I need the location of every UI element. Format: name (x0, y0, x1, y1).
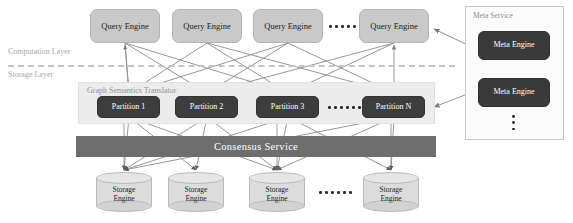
storage-layer-label: Storage Layer (8, 70, 53, 79)
ellipsis-dot (337, 191, 340, 194)
storage-engine-2[interactable]: Storage Engine (168, 172, 224, 212)
meta-engine-2[interactable]: Meta Engine (478, 78, 550, 107)
query-engine-n[interactable]: Query Engine (359, 9, 429, 43)
storage-engine-label: Storage Engine (249, 184, 305, 206)
cylinder-top (96, 172, 152, 184)
ellipsis-dot (349, 191, 352, 194)
partition-n[interactable]: Partition N (362, 96, 425, 118)
partition-3[interactable]: Partition 3 (256, 96, 319, 118)
ellipsis-dot (331, 191, 334, 194)
architecture-diagram: Computation Layer Storage Layer Query En… (0, 0, 573, 223)
storage-engine-ellipsis (319, 191, 352, 194)
graph-semantics-translator-title: Graph Semantics Translator (87, 86, 176, 95)
ellipsis-dot (512, 128, 515, 131)
consensus-service-bar[interactable]: Consensus Service (76, 136, 436, 157)
storage-engine-label-line2: Engine (380, 195, 401, 204)
ellipsis-dot (347, 25, 350, 28)
query-engine-ellipsis (329, 25, 362, 28)
ellipsis-dot (353, 25, 356, 28)
storage-engine-label: Storage Engine (168, 184, 224, 206)
query-engine-2[interactable]: Query Engine (172, 9, 242, 43)
cylinder-top (363, 172, 419, 184)
storage-engine-label: Storage Engine (96, 184, 152, 206)
meta-engine-1[interactable]: Meta Engine (478, 31, 550, 60)
ellipsis-dot (352, 106, 355, 109)
cylinder-top (168, 172, 224, 184)
ellipsis-dot (329, 25, 332, 28)
storage-engine-3[interactable]: Storage Engine (249, 172, 305, 212)
storage-engine-n[interactable]: Storage Engine (363, 172, 419, 212)
storage-engine-label: Storage Engine (363, 184, 419, 206)
ellipsis-dot (346, 106, 349, 109)
partition-1[interactable]: Partition 1 (97, 96, 160, 118)
ellipsis-dot (343, 191, 346, 194)
storage-engine-label-line2: Engine (266, 195, 287, 204)
layer-divider (8, 65, 455, 67)
ellipsis-dot (341, 25, 344, 28)
storage-engine-1[interactable]: Storage Engine (96, 172, 152, 212)
ellipsis-dot (512, 115, 515, 118)
ellipsis-dot (325, 191, 328, 194)
ellipsis-dot (358, 106, 361, 109)
storage-engine-label-line2: Engine (113, 195, 134, 204)
ellipsis-dot (512, 121, 515, 124)
storage-engine-label-line2: Engine (185, 195, 206, 204)
ellipsis-dot (328, 106, 331, 109)
partition-ellipsis (328, 106, 361, 109)
partition-2[interactable]: Partition 2 (175, 96, 238, 118)
meta-service-title: Meta Service (473, 11, 513, 20)
computation-layer-label: Computation Layer (8, 47, 70, 56)
cylinder-top (249, 172, 305, 184)
query-engine-3[interactable]: Query Engine (253, 9, 323, 43)
meta-engine-vertical-ellipsis (512, 115, 515, 130)
ellipsis-dot (319, 191, 322, 194)
ellipsis-dot (334, 106, 337, 109)
ellipsis-dot (335, 25, 338, 28)
query-engine-1[interactable]: Query Engine (90, 9, 160, 43)
ellipsis-dot (340, 106, 343, 109)
